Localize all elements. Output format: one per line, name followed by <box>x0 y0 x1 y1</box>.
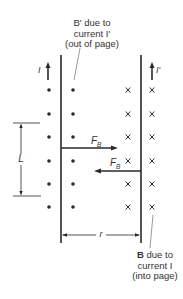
b-prime-leader-line <box>74 48 80 80</box>
b-prime-line1: B' due to <box>62 18 122 29</box>
separation-arrow-left-icon <box>62 233 67 236</box>
b-annotation: B due to current I (into page) <box>124 250 183 282</box>
b-leader-line <box>150 215 153 248</box>
length-arrow-up-icon <box>19 124 22 129</box>
current-arrow-right-icon <box>150 62 155 80</box>
separation-label: r <box>97 229 105 240</box>
b-symbol: B <box>137 249 144 260</box>
current-label-left: I <box>38 65 41 76</box>
force-arrow-right-icon <box>61 146 118 151</box>
b-prime-line3: (out of page) <box>62 39 122 50</box>
force-label-lower: FB <box>110 158 120 173</box>
b-line1: B due to <box>124 250 183 261</box>
length-label: L <box>16 154 26 165</box>
current-label-right: I' <box>156 65 160 76</box>
force-label-upper: FB <box>91 136 101 151</box>
separation-arrow-right-icon <box>135 233 140 236</box>
field-crosses-into-page <box>126 88 155 210</box>
force-lower-subscript: B <box>116 163 120 170</box>
force-upper-subscript: B <box>97 141 101 148</box>
length-arrow-down-icon <box>19 191 22 196</box>
b-prime-annotation: B' due to current I' (out of page) <box>62 18 122 50</box>
b-line1-text: due to <box>144 249 173 260</box>
current-arrow-left-icon <box>46 62 51 80</box>
b-line3: (into page) <box>124 271 183 282</box>
